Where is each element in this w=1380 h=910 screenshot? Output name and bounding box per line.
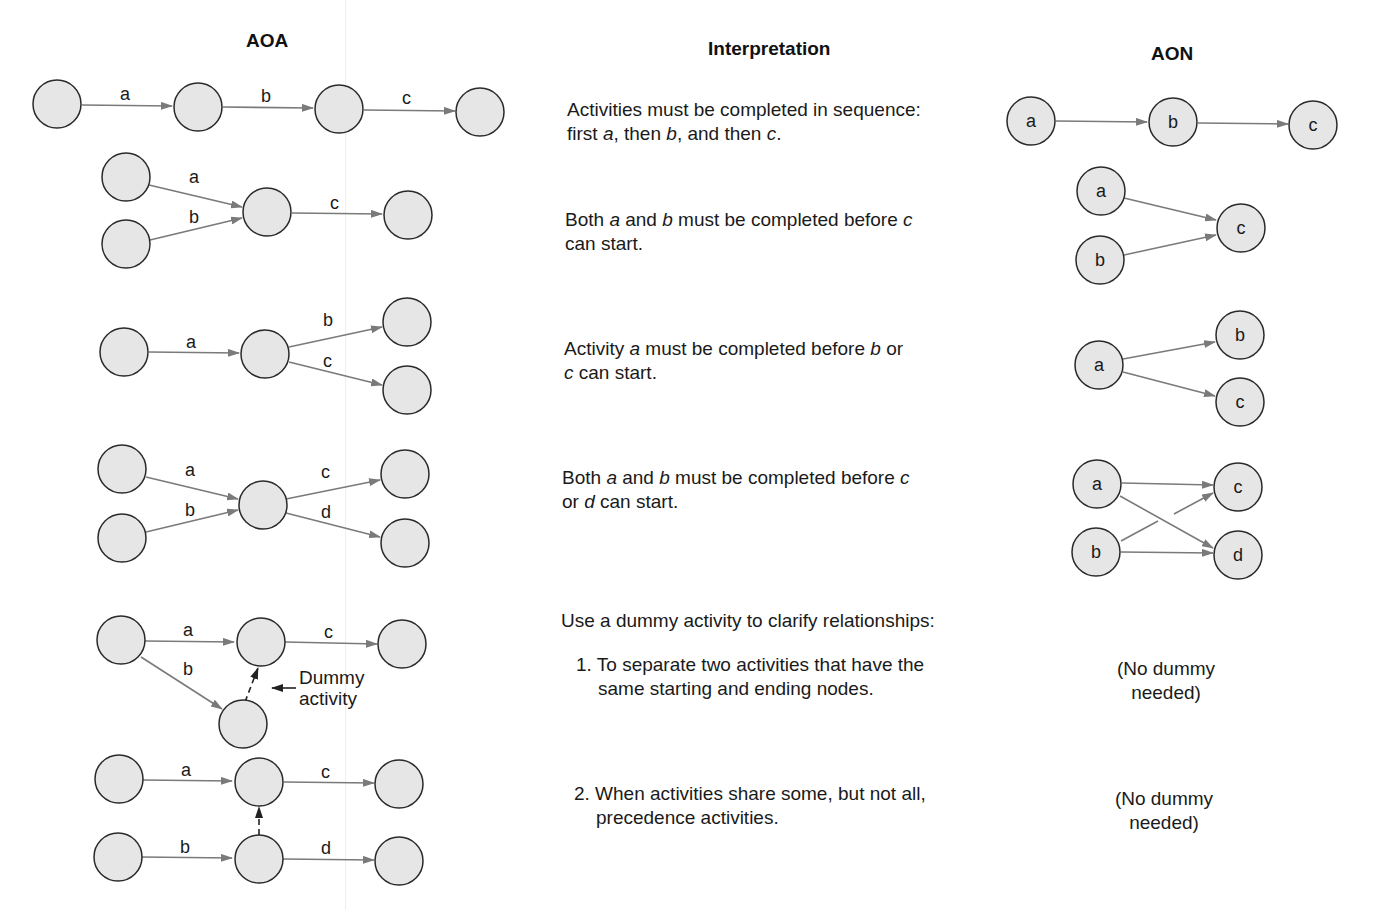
aoa-dummy-2: a c b d bbox=[94, 755, 423, 885]
svg-text:a: a bbox=[120, 84, 131, 104]
svg-text:b: b bbox=[323, 310, 333, 330]
svg-text:c: c bbox=[1309, 115, 1318, 135]
aoa-row-3: a b c bbox=[100, 298, 431, 414]
svg-text:d: d bbox=[1233, 545, 1243, 565]
svg-text:a: a bbox=[186, 332, 197, 352]
svg-text:a: a bbox=[1094, 355, 1105, 375]
aoa-row-2: a b c bbox=[102, 153, 432, 268]
svg-text:c: c bbox=[330, 193, 339, 213]
svg-text:c: c bbox=[321, 462, 330, 482]
svg-text:c: c bbox=[321, 762, 330, 782]
svg-text:a: a bbox=[1096, 181, 1107, 201]
svg-text:b: b bbox=[185, 500, 195, 520]
svg-text:a: a bbox=[1092, 474, 1103, 494]
svg-text:b: b bbox=[1235, 325, 1245, 345]
svg-text:a: a bbox=[1026, 111, 1037, 131]
aoa-dummy-1: a b c bbox=[97, 616, 426, 748]
svg-text:a: a bbox=[181, 760, 192, 780]
svg-text:c: c bbox=[1234, 477, 1243, 497]
svg-text:a: a bbox=[183, 620, 194, 640]
svg-text:b: b bbox=[1168, 112, 1178, 132]
svg-text:b: b bbox=[261, 86, 271, 106]
svg-text:c: c bbox=[323, 351, 332, 371]
aon-row-3: a b c bbox=[1075, 311, 1264, 426]
svg-text:b: b bbox=[183, 659, 193, 679]
svg-text:b: b bbox=[180, 837, 190, 857]
svg-text:b: b bbox=[1095, 250, 1105, 270]
svg-text:d: d bbox=[321, 502, 331, 522]
aoa-row-1: a b c bbox=[33, 80, 504, 136]
network-diagram: a b c a b c a b c a bbox=[0, 0, 1380, 910]
svg-text:a: a bbox=[189, 167, 200, 187]
svg-text:b: b bbox=[189, 207, 199, 227]
svg-text:a: a bbox=[185, 460, 196, 480]
svg-text:c: c bbox=[1237, 218, 1246, 238]
aon-row-2: a b c bbox=[1076, 167, 1265, 284]
aon-row-4: a b c d bbox=[1072, 460, 1262, 579]
svg-text:d: d bbox=[321, 838, 331, 858]
aon-row-1: a b c bbox=[1007, 97, 1337, 149]
svg-text:c: c bbox=[324, 622, 333, 642]
svg-text:c: c bbox=[1236, 392, 1245, 412]
aoa-row-4: a b c d bbox=[98, 445, 429, 567]
svg-text:c: c bbox=[402, 88, 411, 108]
svg-text:b: b bbox=[1091, 542, 1101, 562]
